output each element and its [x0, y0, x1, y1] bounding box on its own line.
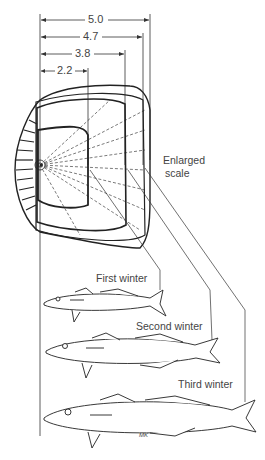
measurement-label-4-7: 4.7 — [81, 30, 100, 42]
stage-label-first-winter: First winter — [96, 272, 147, 284]
fish-second-winter — [46, 333, 220, 378]
fish-scale-diagram — [0, 0, 265, 460]
stage-label-second-winter: Second winter — [136, 320, 203, 332]
artist-signature: MK — [139, 432, 148, 438]
fish-first-winter — [44, 288, 166, 322]
scale-drawing — [15, 85, 150, 248]
measurement-label-5-0: 5.0 — [86, 13, 105, 25]
enlarged-scale-label-line1: Enlarged — [163, 154, 205, 166]
fish-third-winter — [44, 394, 256, 448]
measurement-label-2-2: 2.2 — [55, 64, 74, 76]
measurement-label-3-8: 3.8 — [73, 47, 92, 59]
stage-label-third-winter: Third winter — [178, 378, 233, 390]
enlarged-scale-label-line2: scale — [165, 167, 190, 179]
